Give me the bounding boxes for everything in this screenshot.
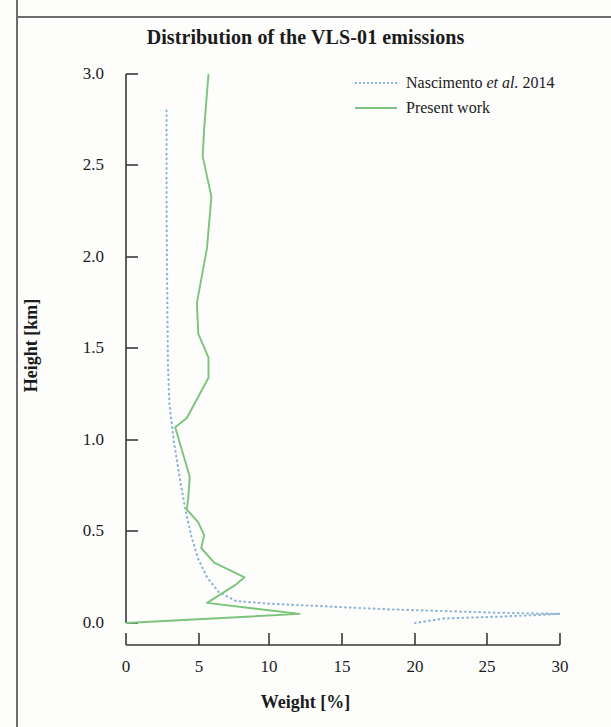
series-line-nascimento	[167, 111, 561, 623]
legend-item-present-work: Present work	[355, 95, 554, 120]
legend-swatch-solid-icon	[355, 101, 397, 115]
y-axis-title: Height [km]	[21, 266, 42, 426]
chart-legend: Nascimento et al. 2014 Present work	[355, 70, 554, 120]
legend-swatch-dotted-icon	[355, 76, 397, 90]
legend-label-present-work: Present work	[406, 99, 490, 117]
legend-item-nascimento: Nascimento et al. 2014	[355, 70, 554, 95]
plot-area: 3.0 2.5 2.0 1.5 1.0 0.5 0.0 0 5 10 15 20…	[0, 0, 611, 727]
x-axis-title: Weight [%]	[0, 692, 611, 713]
legend-label-nascimento: Nascimento et al. 2014	[406, 74, 554, 92]
y-axis	[126, 74, 138, 623]
x-axis	[126, 633, 560, 645]
series-line-present-work	[126, 74, 300, 623]
figure-page: Distribution of the VLS-01 emissions 3.0…	[0, 0, 611, 727]
